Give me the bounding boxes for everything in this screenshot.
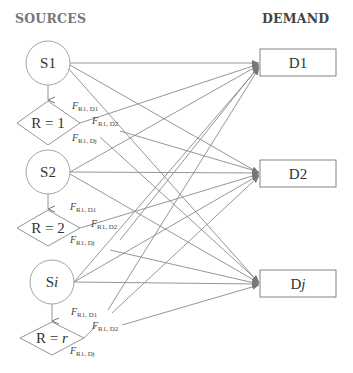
svg-text:FR1, Dj: FR1, Dj (69, 345, 95, 358)
demand-node-dj: Dj (260, 270, 336, 297)
svg-text:Dj: Dj (290, 276, 305, 292)
svg-text:FR1, D2: FR1, D2 (90, 218, 118, 231)
svg-text:FR1, D2: FR1, D2 (91, 320, 119, 333)
svg-text:R = r: R = r (36, 330, 68, 346)
source-node-s1: S1 (26, 41, 70, 85)
svg-text:FR1, Dj: FR1, Dj (69, 234, 95, 247)
flow-labels-rr: FR1, D1 FR1, D2 FR1, Dj (69, 306, 119, 358)
svg-text:D2: D2 (289, 166, 307, 182)
svg-text:FR1, D1: FR1, D1 (70, 306, 98, 319)
sources-header: SOURCES (15, 11, 86, 26)
svg-text:Si: Si (46, 274, 59, 290)
svg-text:D1: D1 (289, 55, 307, 71)
svg-text:R = 2: R = 2 (31, 220, 64, 236)
svg-text:S2: S2 (40, 164, 56, 180)
source-node-si: Si (30, 260, 74, 304)
network-diagram: SOURCES DEMAND S1 (0, 0, 353, 373)
svg-text:R = 1: R = 1 (31, 115, 64, 131)
source-node-s2: S2 (26, 150, 70, 194)
svg-text:FR1, Dj: FR1, Dj (71, 132, 97, 145)
rule-node-r1: R = 1 (17, 101, 80, 145)
demand-header: DEMAND (262, 11, 329, 26)
svg-text:FR1, D1: FR1, D1 (69, 201, 97, 214)
svg-text:FR1, D1: FR1, D1 (71, 100, 99, 113)
demand-node-d1: D1 (260, 49, 336, 76)
svg-text:S1: S1 (40, 55, 56, 71)
demand-node-d2: D2 (260, 160, 336, 187)
svg-text:FR1, D2: FR1, D2 (91, 115, 119, 128)
